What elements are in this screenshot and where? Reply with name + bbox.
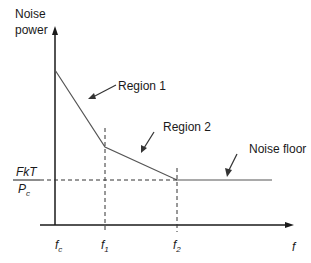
tick-fc: fc — [55, 239, 62, 256]
fkt-numerator: FkT — [16, 166, 37, 179]
noise-floor-pointer — [229, 154, 237, 170]
y-axis-label-line1: Noise — [15, 8, 46, 21]
y-axis-label-line2: power — [15, 24, 48, 37]
noise-power-diagram — [0, 0, 311, 263]
region1-pointer — [93, 85, 116, 97]
pc-sub: c — [26, 189, 30, 198]
x-axis-label: f — [292, 241, 295, 254]
region1-arrow-icon — [88, 93, 96, 99]
region2-label: Region 2 — [163, 121, 211, 134]
y-axis-arrow-icon — [52, 26, 58, 35]
x-axis-arrow-icon — [285, 222, 294, 228]
region1-label: Region 1 — [118, 80, 166, 93]
pc-main: P — [18, 182, 26, 196]
region2-arrow-icon — [141, 145, 147, 153]
noise-floor-label: Noise floor — [249, 143, 306, 156]
tick-f1: f1 — [101, 239, 109, 256]
region2-pointer — [144, 132, 154, 148]
noise-floor-arrow-icon — [225, 168, 232, 177]
tick-f2: f2 — [173, 239, 181, 256]
pc-denominator: Pc — [18, 183, 30, 200]
